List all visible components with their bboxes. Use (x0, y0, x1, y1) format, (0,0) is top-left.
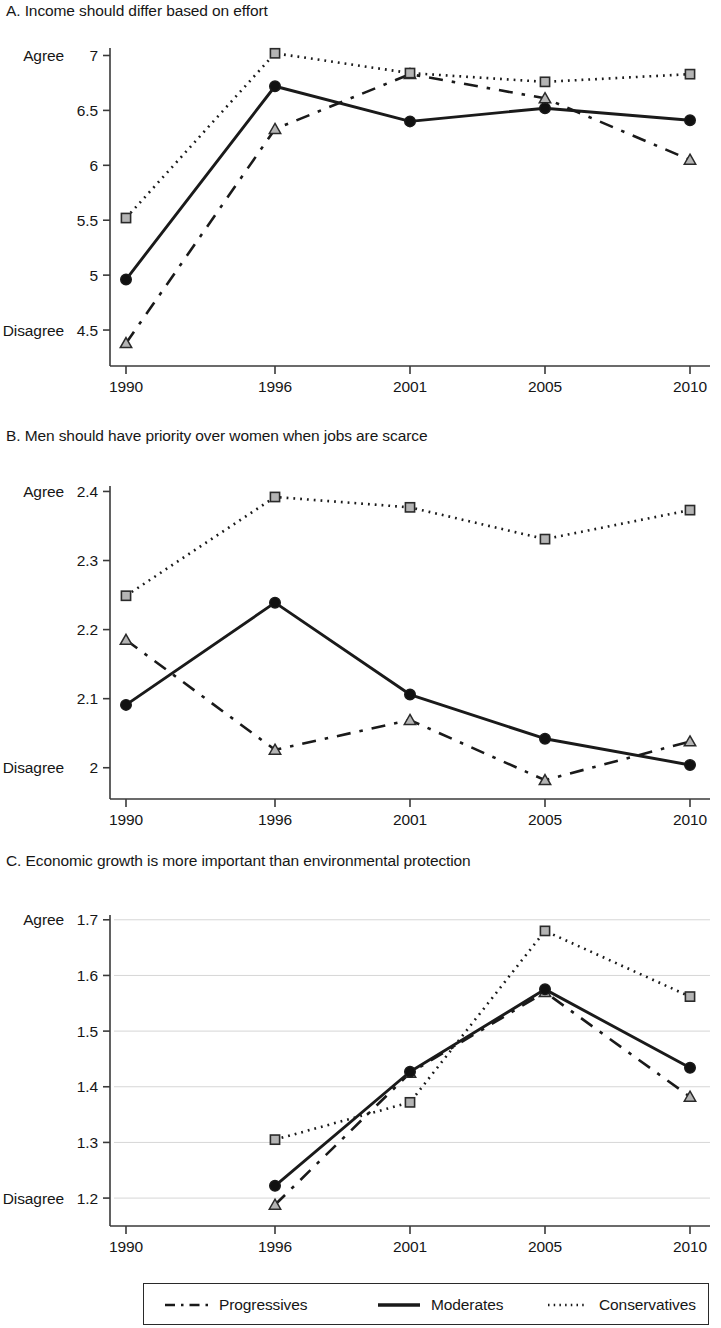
series-line-progressives (275, 992, 690, 1205)
marker-circle (270, 597, 281, 608)
y-axis-low-label: Disagree (3, 759, 64, 776)
x-tick-label: 2010 (673, 378, 708, 395)
legend-swatch-solid-icon (376, 1298, 422, 1312)
marker-circle (405, 1066, 416, 1077)
y-tick-label: 1.3 (77, 1134, 98, 1151)
y-tick-label: 4.5 (77, 322, 98, 339)
marker-square (405, 68, 414, 77)
marker-triangle (684, 1091, 695, 1101)
panel-c: C. Economic growth is more important tha… (0, 850, 721, 1275)
marker-square (121, 213, 130, 222)
y-tick-label: 2.4 (77, 483, 99, 500)
marker-triangle (684, 736, 695, 746)
y-tick-label: 2.1 (77, 690, 98, 707)
marker-square (685, 506, 694, 515)
three-panel-line-chart-figure: A. Income should differ based on effort … (0, 0, 721, 1328)
marker-circle (685, 760, 696, 771)
marker-circle (405, 116, 416, 127)
marker-circle (121, 700, 132, 711)
x-tick-label: 1990 (109, 1238, 144, 1255)
y-axis-high-label: Agree (23, 47, 64, 64)
legend-label-moderates: Moderates (431, 1296, 503, 1314)
y-tick-label: 5.5 (77, 212, 98, 229)
marker-triangle (404, 714, 415, 724)
marker-circle (121, 274, 132, 285)
marker-square (540, 535, 549, 544)
x-tick-label: 2005 (528, 811, 562, 828)
marker-circle (540, 103, 551, 114)
marker-square (270, 1135, 279, 1144)
marker-square (685, 992, 694, 1001)
y-axis-high-label: Agree (23, 911, 64, 928)
y-tick-label: 1.7 (77, 911, 98, 928)
y-tick-label: 1.4 (77, 1078, 99, 1095)
x-tick-label: 2005 (528, 378, 562, 395)
x-tick-label: 1996 (258, 1238, 292, 1255)
x-tick-label: 2001 (393, 811, 427, 828)
legend-item-progressives: Progressives (164, 1293, 307, 1317)
marker-circle (540, 733, 551, 744)
marker-square (405, 503, 414, 512)
y-tick-label: 2.2 (77, 621, 98, 638)
legend-item-moderates: Moderates (376, 1293, 503, 1317)
x-tick-label: 1996 (258, 811, 292, 828)
marker-triangle (120, 634, 131, 644)
marker-square (270, 49, 279, 58)
legend-item-conservatives: Conservatives (544, 1293, 696, 1317)
marker-square (540, 926, 549, 935)
marker-circle (270, 81, 281, 92)
y-axis-low-label: Disagree (3, 1190, 64, 1207)
marker-square (685, 70, 694, 79)
x-tick-label: 2010 (673, 811, 708, 828)
y-tick-label: 1.5 (77, 1023, 98, 1040)
x-tick-label: 1990 (109, 811, 144, 828)
x-tick-label: 1990 (109, 378, 144, 395)
y-tick-label: 7 (89, 47, 98, 64)
marker-circle (685, 115, 696, 126)
marker-circle (270, 1181, 281, 1192)
marker-circle (405, 689, 416, 700)
x-tick-label: 2001 (393, 1238, 427, 1255)
panel-b-plot: 22.12.22.32.4AgreeDisagree19901996200120… (0, 425, 721, 845)
marker-circle (540, 984, 551, 995)
legend-swatch-dotted-icon (544, 1298, 590, 1312)
x-tick-label: 2001 (393, 378, 427, 395)
x-tick-label: 2010 (673, 1238, 708, 1255)
x-tick-label: 1996 (258, 378, 292, 395)
marker-square (121, 591, 130, 600)
marker-square (540, 77, 549, 86)
y-tick-label: 6 (89, 157, 98, 174)
legend-swatch-dashed-icon (164, 1298, 210, 1312)
series-line-moderates (126, 86, 690, 279)
y-tick-label: 5 (89, 267, 98, 284)
legend-label-conservatives: Conservatives (599, 1296, 696, 1314)
panel-c-plot: 1.21.31.41.51.61.7AgreeDisagree199019962… (0, 850, 721, 1275)
marker-circle (685, 1063, 696, 1074)
y-axis-low-label: Disagree (3, 322, 64, 339)
panel-b: B. Men should have priority over women w… (0, 425, 721, 845)
series-line-moderates (275, 989, 690, 1185)
series-line-progressives (126, 640, 690, 780)
chart-legend: Progressives Moderates Conservatives (143, 1283, 709, 1325)
y-tick-label: 1.6 (77, 967, 98, 984)
marker-triangle (684, 154, 695, 164)
y-tick-label: 6.5 (77, 102, 98, 119)
marker-square (405, 1098, 414, 1107)
y-tick-label: 2 (89, 759, 98, 776)
panel-a-plot: 4.555.566.57AgreeDisagree199019962001200… (0, 0, 721, 420)
legend-label-progressives: Progressives (219, 1296, 307, 1314)
y-tick-label: 1.2 (77, 1190, 98, 1207)
y-axis-high-label: Agree (23, 483, 64, 500)
marker-triangle (269, 123, 280, 133)
panel-a: A. Income should differ based on effort … (0, 0, 721, 420)
x-tick-label: 2005 (528, 1238, 562, 1255)
y-tick-label: 2.3 (77, 552, 98, 569)
series-line-moderates (126, 603, 690, 765)
marker-square (270, 492, 279, 501)
